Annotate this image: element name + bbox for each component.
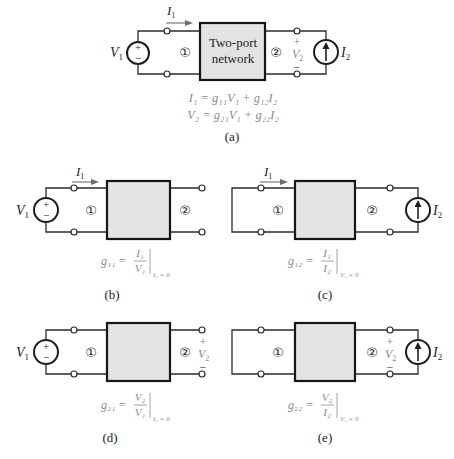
i1-arrowhead-icon xyxy=(91,179,99,185)
source-minus-sign: − xyxy=(43,209,49,221)
panel-e: ① ② + V2 − I2 g₂₂ = V₂ I₂ V₁ = 0 (e) xyxy=(232,323,442,445)
v2-minus-sign: − xyxy=(200,360,207,374)
g21-definition: g₂₁ = V₂ V₁ I₂ = 0 xyxy=(101,391,170,423)
equation-i1: I₁ = g₁₁V₁ + g₁₂I₂ xyxy=(188,91,278,105)
two-port-network-box xyxy=(107,181,170,239)
caption-d: (d) xyxy=(102,430,117,445)
network-label-line1: Two-port xyxy=(209,35,258,50)
equation-denominator: I₂ xyxy=(322,406,331,418)
port1-bottom-terminal xyxy=(258,371,264,377)
equation-condition: V₁ = 0 xyxy=(340,271,359,279)
port2-number: ② xyxy=(270,45,282,60)
port1-number: ① xyxy=(272,345,284,360)
equation-lhs: g₁₁ = xyxy=(101,254,126,268)
i1-label: I1 xyxy=(166,3,175,20)
g22-definition: g₂₂ = V₂ I₂ V₁ = 0 xyxy=(288,391,359,423)
equation-numerator: V₂ xyxy=(322,391,333,403)
port2-bottom-terminal xyxy=(387,229,393,235)
port2-top-terminal xyxy=(294,28,300,34)
i1-arrowhead-icon xyxy=(185,20,193,26)
caption-e: (e) xyxy=(318,430,332,445)
two-port-network-box xyxy=(107,323,170,381)
port2-number: ② xyxy=(179,345,191,360)
caption-a: (a) xyxy=(225,129,239,144)
port1-number: ① xyxy=(85,203,97,218)
equation-condition: V₁ = 0 xyxy=(340,415,359,423)
port1-number: ① xyxy=(85,345,97,360)
equation-numerator: I₁ xyxy=(135,247,144,259)
v2-minus-sign: − xyxy=(387,360,394,374)
i1-arrowhead-icon xyxy=(280,179,288,185)
two-port-network-box xyxy=(295,323,355,381)
short-circuit-wire xyxy=(232,330,258,374)
equation-lhs: g₂₂ = xyxy=(288,398,313,412)
network-label-line2: network xyxy=(212,51,255,66)
g-parameter-figure: + − V1 I1 ① Two-port network ② + V2 − I2… xyxy=(0,0,454,459)
i2-label: I2 xyxy=(340,45,350,62)
g11-definition: g₁₁ = I₁ V₁ I₂ = 0 xyxy=(101,247,170,279)
port1-number: ① xyxy=(272,203,284,218)
equation-v2: V₂ = g₂₁V₁ + g₂₂I₂ xyxy=(187,108,279,122)
port2-top-terminal xyxy=(199,327,205,333)
source-minus-sign: − xyxy=(43,351,49,363)
port1-top-terminal xyxy=(258,327,264,333)
i1-label: I1 xyxy=(75,164,84,181)
i2-label: I2 xyxy=(432,345,442,362)
source-minus-sign: − xyxy=(135,52,141,64)
caption-c: (c) xyxy=(318,287,332,302)
panel-a: + − V1 I1 ① Two-port network ② + V2 − I2… xyxy=(110,3,350,144)
port1-top-terminal xyxy=(71,327,77,333)
port2-number: ② xyxy=(179,203,191,218)
panel-d: + − V1 ① ② + V2 − g₂₁ = V₂ V₁ I₂ = 0 (d) xyxy=(16,323,209,445)
equation-denominator: V₁ xyxy=(135,406,146,418)
port1-bottom-terminal xyxy=(164,71,170,77)
port1-top-terminal xyxy=(71,185,77,191)
port2-bottom-terminal xyxy=(199,229,205,235)
caption-b: (b) xyxy=(104,287,119,302)
equation-lhs: g₂₁ = xyxy=(101,398,126,412)
port1-number: ① xyxy=(179,45,191,60)
equation-condition: I₂ = 0 xyxy=(152,271,170,279)
port1-bottom-terminal xyxy=(258,229,264,235)
port1-top-terminal xyxy=(164,28,170,34)
v2-minus-sign: − xyxy=(294,60,301,74)
panel-c: I1 ① ② I2 g₁₂ = I₁ I₂ V₁ = 0 (c) xyxy=(232,164,442,302)
v1-label: V1 xyxy=(16,345,29,362)
equation-denominator: V₁ xyxy=(135,262,146,274)
equation-denominator: I₂ xyxy=(322,262,331,274)
i2-label: I2 xyxy=(432,203,442,220)
port2-number: ② xyxy=(366,203,378,218)
port1-top-terminal xyxy=(258,185,264,191)
port2-top-terminal xyxy=(387,327,393,333)
port1-bottom-terminal xyxy=(71,229,77,235)
equation-condition: I₂ = 0 xyxy=(152,415,170,423)
equation-lhs: g₁₂ = xyxy=(288,254,313,268)
v1-label: V1 xyxy=(110,45,123,62)
equation-numerator: I₁ xyxy=(322,247,331,259)
port2-number: ② xyxy=(366,345,378,360)
panel-b: + − V1 I1 ① ② g₁₁ = I₁ V₁ I₂ = 0 (b) xyxy=(16,164,205,302)
port2-top-terminal xyxy=(387,185,393,191)
g12-definition: g₁₂ = I₁ I₂ V₁ = 0 xyxy=(288,247,359,279)
port2-top-terminal xyxy=(199,185,205,191)
v1-label: V1 xyxy=(16,203,29,220)
port1-bottom-terminal xyxy=(71,371,77,377)
equation-numerator: V₂ xyxy=(135,391,146,403)
i1-label: I1 xyxy=(263,164,272,181)
short-circuit-wire xyxy=(232,188,258,232)
two-port-network-box xyxy=(295,181,355,239)
